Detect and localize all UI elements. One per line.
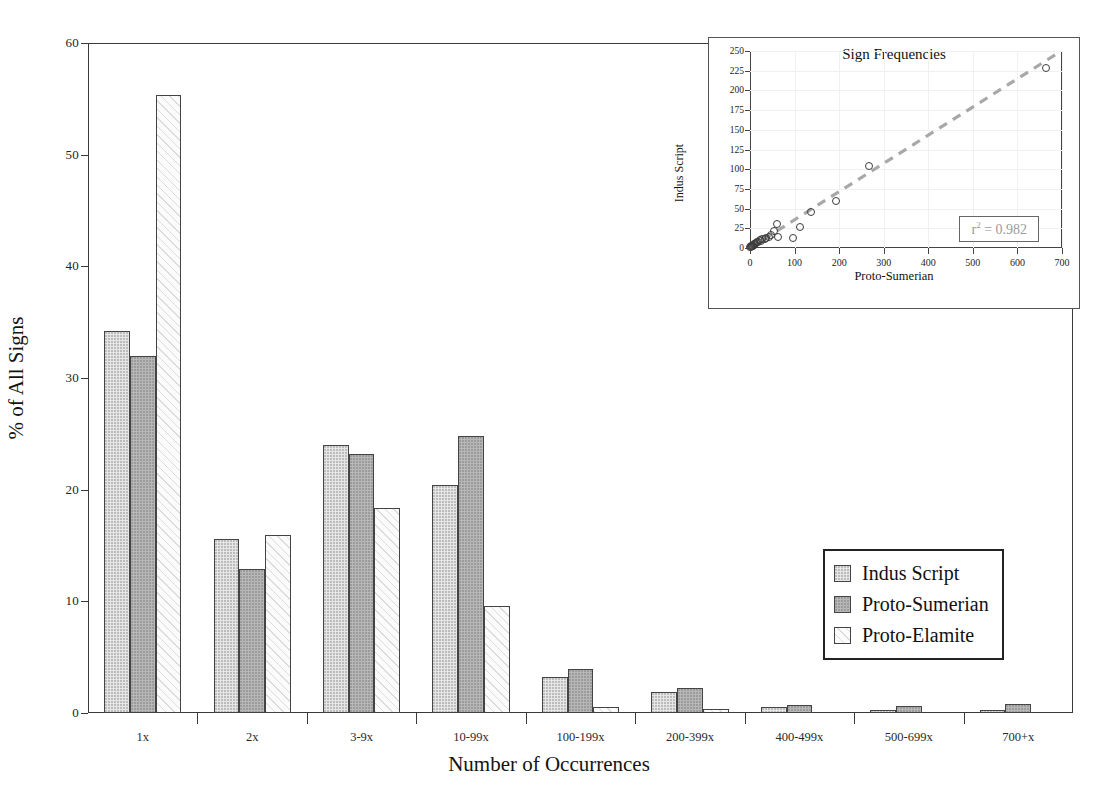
inset-x-tick-mark	[750, 248, 751, 254]
inset-x-tick-mark	[839, 248, 840, 254]
x-tick-label: 100-199x	[557, 730, 605, 745]
inset-x-tick-mark	[1062, 248, 1063, 254]
gridline-vertical	[1062, 51, 1063, 248]
inset-x-tick-label: 200	[832, 257, 847, 268]
inset-x-tick-label: 300	[876, 257, 891, 268]
x-tick-label: 2x	[246, 730, 259, 745]
inset-x-tick-label: 700	[1055, 257, 1070, 268]
inset-x-axis-label: Proto-Sumerian	[854, 269, 933, 284]
bar	[870, 710, 896, 713]
legend-item[interactable]: Proto-Elamite	[834, 620, 989, 651]
x-tick-mark	[307, 713, 308, 724]
bar-group	[197, 43, 306, 713]
legend-item[interactable]: Indus Script	[834, 558, 989, 589]
x-tick-mark	[964, 713, 965, 724]
y-tick-mark	[81, 266, 88, 267]
x-tick-label: 200-399x	[666, 730, 714, 745]
legend: Indus ScriptProto-SumerianProto-Elamite	[823, 549, 1004, 660]
bar	[542, 677, 568, 713]
inset-y-tick-mark	[745, 209, 750, 210]
x-tick-mark	[197, 713, 198, 724]
inset-y-tick-mark	[745, 189, 750, 190]
scatter-point	[789, 234, 797, 242]
bar	[104, 331, 130, 713]
inset-x-tick-mark	[1017, 248, 1018, 254]
inset-y-tick-mark	[745, 130, 750, 131]
legend-item[interactable]: Proto-Sumerian	[834, 589, 989, 620]
bar	[432, 485, 458, 713]
legend-label: Proto-Sumerian	[862, 593, 989, 616]
bar	[323, 445, 349, 713]
y-axis-label: % of All Signs	[4, 316, 29, 439]
bar	[484, 606, 510, 713]
bar-group	[416, 43, 525, 713]
legend-swatch-icon	[834, 627, 851, 644]
inset-y-axis-label: Indus Script	[672, 144, 687, 202]
bar	[703, 709, 729, 713]
scatter-point	[796, 223, 804, 231]
x-tick-mark	[526, 713, 527, 724]
bar	[651, 692, 677, 713]
inset-x-tick-mark	[884, 248, 885, 254]
bar-group	[88, 43, 197, 713]
legend-swatch-icon	[834, 596, 851, 613]
inset-x-tick-label: 600	[1010, 257, 1025, 268]
inset-y-tick-mark	[745, 90, 750, 91]
x-tick-mark	[745, 713, 746, 724]
y-tick-mark	[81, 601, 88, 602]
inset-x-tick-label: 0	[748, 257, 753, 268]
bar	[374, 508, 400, 713]
bar	[896, 706, 922, 713]
x-tick-mark	[854, 713, 855, 724]
inset-x-tick-mark	[928, 248, 929, 254]
inset-y-tick-mark	[745, 110, 750, 111]
inset-y-tick-mark	[745, 150, 750, 151]
x-tick-label: 700+x	[1002, 730, 1034, 745]
bar-group	[307, 43, 416, 713]
legend-label: Proto-Elamite	[862, 624, 974, 647]
y-tick-mark	[81, 490, 88, 491]
legend-label: Indus Script	[862, 562, 959, 585]
inset-x-tick-label: 100	[787, 257, 802, 268]
scatter-point	[832, 197, 840, 205]
r-squared-annotation: r2 = 0.982	[959, 216, 1039, 242]
inset-y-tick-mark	[745, 51, 750, 52]
inset-y-tick-mark	[745, 71, 750, 72]
bar	[980, 710, 1006, 713]
bar	[568, 669, 594, 713]
bar	[349, 454, 375, 713]
x-tick-label: 3-9x	[350, 730, 373, 745]
inset-y-tick-mark	[745, 228, 750, 229]
scatter-point	[807, 208, 815, 216]
x-tick-label: 1x	[136, 730, 149, 745]
legend-swatch-icon	[834, 565, 851, 582]
inset-x-tick-label: 500	[965, 257, 980, 268]
x-tick-mark	[635, 713, 636, 724]
x-tick-mark	[416, 713, 417, 724]
bar	[593, 707, 619, 713]
bar	[130, 356, 156, 713]
inset-x-tick-label: 400	[921, 257, 936, 268]
inset-x-tick-mark	[973, 248, 974, 254]
bar	[239, 569, 265, 713]
inset-plot-area: 0255075100125150175200225250 01002003004…	[750, 51, 1062, 248]
bar	[761, 707, 787, 713]
inset-x-tick-mark	[795, 248, 796, 254]
bar	[214, 539, 240, 713]
y-tick-mark	[81, 378, 88, 379]
x-tick-label: 10-99x	[453, 730, 488, 745]
y-tick-mark	[81, 713, 88, 714]
scatter-point	[865, 162, 873, 170]
scatter-point	[1042, 64, 1050, 72]
bar	[265, 535, 291, 713]
bar-group	[526, 43, 635, 713]
bar	[787, 705, 813, 713]
inset-y-tick-mark	[745, 169, 750, 170]
x-tick-label: 500-699x	[885, 730, 933, 745]
bar	[156, 95, 182, 713]
x-tick-label: 400-499x	[775, 730, 823, 745]
figure: 0102030405060 1x2x3-9x10-99x100-199x200-…	[0, 0, 1098, 806]
bar	[677, 688, 703, 713]
x-axis-label: Number of Occurrences	[448, 752, 650, 777]
bar	[458, 436, 484, 713]
